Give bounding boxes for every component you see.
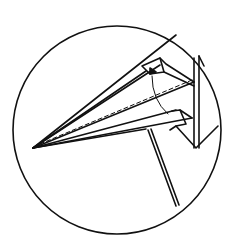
- fold-diagram: [0, 0, 235, 246]
- fold-arrow: [152, 76, 168, 114]
- airplane-nose: [33, 35, 218, 148]
- callout-circle: [13, 26, 221, 234]
- support-stick: [148, 129, 179, 206]
- diagram-canvas: [0, 0, 235, 246]
